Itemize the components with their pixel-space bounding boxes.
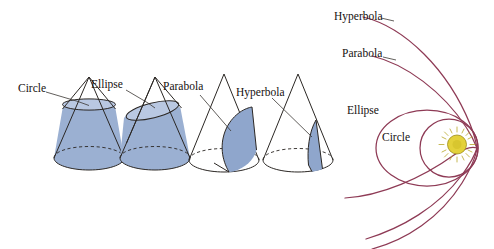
- cone-circle: Circle: [18, 77, 124, 170]
- cone-hyperbola-leader: [272, 98, 312, 137]
- sun-icon: [439, 127, 475, 162]
- cone-ellipse-leader: [126, 90, 155, 108]
- orbit-diagram: Hyperbola Parabola Ellipse Circle: [334, 10, 478, 249]
- orbit-label-ellipse: Ellipse: [347, 104, 379, 117]
- cone-ellipse-label: Ellipse: [91, 78, 123, 91]
- figure-canvas: Circle Ellipse Parabola: [0, 0, 494, 249]
- orbit-label-circle: Circle: [382, 131, 410, 143]
- cone-parabola-leader: [200, 95, 231, 131]
- orbit-label-parabola: Parabola: [342, 47, 382, 59]
- conic-sections-figure: Circle Ellipse Parabola: [0, 0, 494, 249]
- cone-circle-cut-face: [63, 99, 116, 110]
- orbit-label-hyperbola: Hyperbola: [334, 10, 383, 23]
- orbit-hyperbola-leader: [381, 18, 394, 21]
- cone-circle-body: [54, 103, 124, 170]
- sun-core: [453, 140, 462, 149]
- cone-circle-label: Circle: [18, 82, 46, 94]
- cone-hyperbola-label: Hyperbola: [236, 86, 285, 99]
- cone-parabola-label: Parabola: [163, 80, 203, 92]
- cone-hyperbola-base-back: [263, 149, 333, 161]
- cone-parabola-slice: [222, 107, 256, 172]
